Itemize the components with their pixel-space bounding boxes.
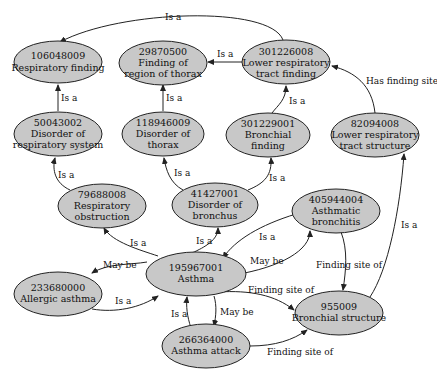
edge-label: May be xyxy=(220,307,254,317)
ontology-diagram: Is a Is a Is a Is a Is a Has finding sit… xyxy=(0,0,437,378)
node-301226008: 301226008 Lower respiratory tract findin… xyxy=(242,40,330,84)
node-301229001: 301229001 Bronchial finding xyxy=(226,113,310,157)
edge-label: Is a xyxy=(196,236,213,246)
svg-text:Disorder of: Disorder of xyxy=(136,128,192,139)
edge-955009-isa-82094008 xyxy=(370,154,404,297)
svg-text:106048009: 106048009 xyxy=(31,50,85,61)
svg-text:Lower respiratory: Lower respiratory xyxy=(242,57,330,68)
svg-text:Respiratory: Respiratory xyxy=(74,200,131,211)
edge-label: May be xyxy=(103,260,137,270)
edge-label: Has finding site xyxy=(366,76,437,86)
edge-301229001-isa-301226008 xyxy=(272,86,286,113)
edge-195967001-maybe-266364000 xyxy=(214,296,216,326)
svg-text:Disorder of: Disorder of xyxy=(31,128,87,139)
edge-266364000-findingsiteof-955009 xyxy=(250,330,307,346)
svg-text:Asthma: Asthma xyxy=(177,273,215,284)
svg-text:Asthmatic: Asthmatic xyxy=(311,205,361,216)
edge-label: Is a xyxy=(289,96,306,106)
svg-text:405944004: 405944004 xyxy=(309,194,363,205)
svg-text:Respiratory finding: Respiratory finding xyxy=(11,62,104,73)
node-41427001: 41427001 Disorder of bronchus xyxy=(172,183,258,227)
svg-text:955009: 955009 xyxy=(321,301,357,312)
edge-82094008-hasfindingsite-301226008 xyxy=(332,66,375,113)
svg-text:266364000: 266364000 xyxy=(179,334,233,345)
svg-text:82094008: 82094008 xyxy=(351,118,399,129)
svg-text:finding: finding xyxy=(251,140,285,151)
edge-label: Is a xyxy=(217,49,234,59)
node-266364000: 266364000 Asthma attack xyxy=(162,324,250,368)
edge-41427001-isa-301229001 xyxy=(248,158,271,190)
edge-label: Is a xyxy=(115,296,132,306)
node-955009: 955009 Bronchial structure xyxy=(292,291,387,335)
edge-label: Is a xyxy=(130,238,147,248)
node-50043002: 50043002 Disorder of respiratory system xyxy=(13,112,103,156)
svg-text:301226008: 301226008 xyxy=(259,46,313,57)
svg-text:tract finding: tract finding xyxy=(256,68,316,79)
node-233680000: 233680000 Allergic asthma xyxy=(14,272,102,316)
node-195967001: 195967001 Asthma xyxy=(146,252,246,296)
svg-text:Lower respiratory: Lower respiratory xyxy=(331,129,419,140)
node-106048009: 106048009 Respiratory finding xyxy=(11,41,104,83)
svg-text:50043002: 50043002 xyxy=(34,117,82,128)
svg-text:Bronchial structure: Bronchial structure xyxy=(292,312,387,323)
svg-text:118946009: 118946009 xyxy=(136,117,190,128)
svg-text:41427001: 41427001 xyxy=(191,188,239,199)
svg-text:29870500: 29870500 xyxy=(139,46,187,57)
edge-label: Finding site of xyxy=(316,260,383,270)
svg-text:Disorder of: Disorder of xyxy=(188,199,244,210)
svg-text:Asthma attack: Asthma attack xyxy=(170,345,241,356)
svg-text:tract structure: tract structure xyxy=(340,140,411,151)
node-79688008: 79688008 Respiratory obstruction xyxy=(58,184,146,228)
svg-text:bronchitis: bronchitis xyxy=(312,216,361,227)
node-405944004: 405944004 Asthmatic bronchitis xyxy=(292,189,380,233)
svg-text:region of thorax: region of thorax xyxy=(124,68,202,79)
svg-text:233680000: 233680000 xyxy=(31,282,85,293)
svg-text:Bronchial: Bronchial xyxy=(245,129,292,140)
svg-text:195967001: 195967001 xyxy=(169,262,223,273)
edge-label: May be xyxy=(250,256,284,266)
edge-label: Is a xyxy=(174,168,191,178)
edge-label: Finding site of xyxy=(248,285,315,295)
edge-label: Is a xyxy=(166,93,183,103)
svg-text:301229001: 301229001 xyxy=(241,118,295,129)
node-118946009: 118946009 Disorder of thorax xyxy=(122,112,204,156)
svg-text:bronchus: bronchus xyxy=(193,210,238,221)
edge-label: Is a xyxy=(165,12,182,22)
svg-text:thorax: thorax xyxy=(147,139,179,150)
svg-text:obstruction: obstruction xyxy=(74,211,129,222)
svg-text:Allergic asthma: Allergic asthma xyxy=(19,293,96,304)
edge-label: Is a xyxy=(61,93,78,103)
edge-label: Finding site of xyxy=(267,347,334,357)
edge-label: Is a xyxy=(259,232,276,242)
edge-label: Is a xyxy=(269,173,286,183)
svg-text:79688008: 79688008 xyxy=(78,189,126,200)
svg-text:Finding of: Finding of xyxy=(138,57,189,68)
svg-text:respiratory system: respiratory system xyxy=(13,139,103,150)
edge-label: Is a xyxy=(58,170,75,180)
edge-label: Is a xyxy=(401,220,418,230)
edge-label: Is a xyxy=(171,309,188,319)
node-29870500: 29870500 Finding of region of thorax xyxy=(119,41,207,85)
node-82094008: 82094008 Lower respiratory tract structu… xyxy=(331,113,419,157)
